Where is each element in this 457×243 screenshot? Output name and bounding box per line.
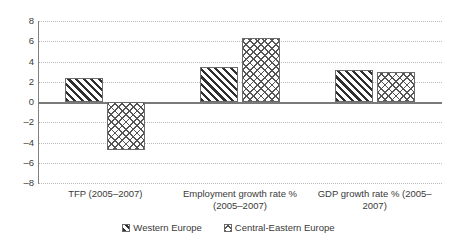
- y-axis-tick-label: –2: [4, 117, 34, 127]
- bar: [335, 70, 373, 102]
- bar-group: [173, 21, 308, 183]
- y-axis-tick-label: 4: [4, 57, 34, 67]
- bar: [242, 38, 280, 102]
- y-axis-tick-label: 0: [4, 97, 34, 107]
- bar: [107, 102, 145, 150]
- y-axis-tick-label: 8: [4, 16, 34, 26]
- bar-group: [38, 21, 173, 183]
- bar: [200, 67, 238, 102]
- x-axis-category-labels: TFP (2005–2007)Employment growth rate % …: [38, 188, 442, 222]
- x-axis-category-label: TFP (2005–2007): [38, 188, 173, 200]
- y-axis-tick-labels: 86420–2–4–6–8: [0, 21, 34, 183]
- legend-swatch-cross-hatch-icon: [224, 224, 232, 232]
- bar: [65, 78, 103, 102]
- y-axis-tick-label: –6: [4, 158, 34, 168]
- y-axis-tick-label: 2: [4, 77, 34, 87]
- bar: [377, 72, 415, 102]
- x-axis-category-label: GDP growth rate % (2005–2007): [307, 188, 442, 211]
- y-axis-tick-label: –4: [4, 138, 34, 148]
- y-axis-tick-label: –8: [4, 178, 34, 188]
- gridline: [38, 183, 442, 184]
- y-axis-tick-label: 6: [4, 36, 34, 46]
- bars-layer: [38, 21, 442, 183]
- legend-label-central-eastern-europe: Central-Eastern Europe: [235, 222, 335, 233]
- legend-item-western-europe: Western Europe: [122, 222, 201, 233]
- bar-chart: 86420–2–4–6–8 TFP (2005–2007)Employment …: [0, 0, 457, 243]
- legend-swatch-diagonal-hatch-icon: [122, 224, 130, 232]
- legend: Western Europe Central-Eastern Europe: [0, 222, 457, 233]
- legend-item-central-eastern-europe: Central-Eastern Europe: [224, 222, 335, 233]
- bar-group: [307, 21, 442, 183]
- legend-label-western-europe: Western Europe: [133, 222, 201, 233]
- x-axis-category-label: Employment growth rate % (2005–2007): [173, 188, 308, 211]
